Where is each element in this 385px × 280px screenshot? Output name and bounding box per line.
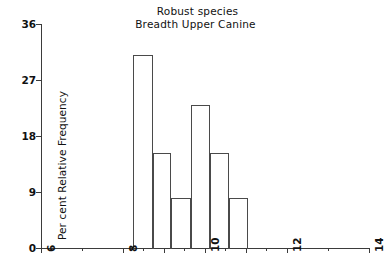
- y-tick-36: [36, 24, 41, 25]
- histogram-bar: [153, 153, 172, 249]
- x-tick-label-8: 8: [127, 245, 139, 252]
- histogram-bar: [210, 153, 229, 249]
- y-tick-label-27: 27: [10, 74, 36, 86]
- x-tick-minor-13: [328, 248, 329, 251]
- y-tick-27: [36, 80, 41, 81]
- y-tick-18: [36, 136, 41, 137]
- y-tick-label-0: 0: [10, 242, 36, 254]
- x-tick-6: [41, 248, 42, 253]
- histogram-bar: [171, 198, 190, 249]
- x-tick-minor-7: [82, 248, 83, 251]
- histogram-bar: [229, 198, 248, 249]
- y-tick-9: [36, 192, 41, 193]
- x-tick-minor-11p5: [266, 248, 267, 251]
- y-axis-line: [41, 24, 42, 249]
- x-tick-label-10: 10: [209, 237, 221, 252]
- y-tick-label-18: 18: [10, 130, 36, 142]
- y-tick-label-36: 36: [10, 18, 36, 30]
- x-tick-12: [287, 248, 288, 253]
- histogram-bar: [191, 105, 210, 249]
- plot-area: [41, 24, 369, 248]
- x-tick-label-6: 6: [45, 245, 57, 252]
- y-tick-label-9: 9: [10, 186, 36, 198]
- chart-title-line-1: Robust species: [0, 5, 381, 18]
- histogram-bar: [133, 55, 152, 249]
- x-tick-label-12: 12: [291, 237, 303, 252]
- x-tick-8: [123, 248, 124, 253]
- x-tick-label-14: 14: [373, 237, 385, 252]
- x-tick-14: [369, 248, 370, 253]
